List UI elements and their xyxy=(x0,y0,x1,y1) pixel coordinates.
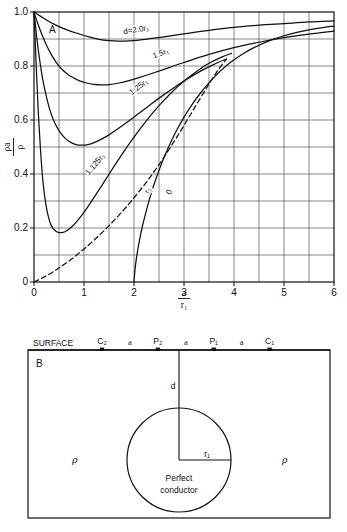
resistivity-right-label: ρ xyxy=(281,453,287,465)
electrode-marker[interactable] xyxy=(212,348,216,351)
y-tick-label: 0.6 xyxy=(14,114,28,125)
conductor-label-line1: Perfect xyxy=(166,473,194,483)
x-tick-label: 2 xyxy=(131,287,137,298)
curve-labels: d=2.0r₁d=2.0r₁1.5r₁1.5r₁1.25r₁1.25r₁1.12… xyxy=(83,23,174,195)
x-tick-label: 5 xyxy=(281,287,287,298)
electrode-label-3: C₁ xyxy=(265,336,274,346)
curve-label-5: 00 xyxy=(164,188,174,196)
x-axis-label: a r₁ xyxy=(178,288,190,310)
x-axis-label-denominator: r₁ xyxy=(181,300,187,310)
y-axis-label-denominator: ρ xyxy=(15,144,25,149)
x-tick-label: 0 xyxy=(31,287,37,298)
y-tick-label: 1.0 xyxy=(14,6,28,17)
y-tick-label: 0.4 xyxy=(14,168,28,179)
curve-label-text: d=2.0r₁ xyxy=(123,23,150,36)
spacing-label-0: a xyxy=(128,337,132,347)
electrode-label-0: C₂ xyxy=(97,336,106,346)
radius-label: r₁ xyxy=(204,449,210,459)
resistivity-left-label: ρ xyxy=(71,453,77,465)
curve-label-1: 1.5r₁1.5r₁ xyxy=(151,46,170,60)
electrode-marker[interactable] xyxy=(156,348,160,351)
curve-label-text: 1.125r₁ xyxy=(83,151,106,176)
chart-panel-a: d=2.0r₁d=2.0r₁1.5r₁1.5r₁1.25r₁1.25r₁1.12… xyxy=(0,0,347,320)
y-tick-label: 0 xyxy=(22,276,28,287)
diagram-panel-b: SURFACE B C₂P₂P₁C₁ aaa d r₁ Perfect cond… xyxy=(0,320,347,532)
electrode-marker[interactable] xyxy=(267,348,271,351)
curve-label-text: 0 xyxy=(164,188,174,196)
x-tick-label: 1 xyxy=(81,287,87,298)
y-axis-label-numerator: ρa xyxy=(2,142,12,152)
panel-a-label: A xyxy=(49,24,56,35)
spacing-label-1: a xyxy=(184,337,188,347)
curve-label-text: 1.5r₁ xyxy=(151,46,170,60)
grid-lines xyxy=(34,12,334,282)
panel-b-label: B xyxy=(36,358,43,369)
y-tick-label: 0.8 xyxy=(14,60,28,71)
figure-container: d=2.0r₁d=2.0r₁1.5r₁1.5r₁1.25r₁1.25r₁1.12… xyxy=(0,0,347,532)
curve-label-3: 1.125r₁1.125r₁ xyxy=(83,151,106,176)
electrode-label-1: P₂ xyxy=(153,336,162,346)
conductor-label-line2: conductor xyxy=(160,485,197,495)
curve-3 xyxy=(34,12,232,233)
x-tick-label: 6 xyxy=(331,287,337,298)
spacing-labels: aaa xyxy=(128,337,244,347)
x-tick-label: 4 xyxy=(231,287,237,298)
curve-label-0: d=2.0r₁d=2.0r₁ xyxy=(123,23,150,36)
electrode-marker[interactable] xyxy=(100,348,104,351)
depth-label: d xyxy=(171,381,176,391)
y-tick-label: 0.2 xyxy=(14,222,28,233)
spacing-label-2: a xyxy=(240,337,244,347)
surface-label: SURFACE xyxy=(33,338,73,348)
y-axis-label: ρa ρ xyxy=(2,138,25,156)
electrode-label-2: P₁ xyxy=(209,336,218,346)
